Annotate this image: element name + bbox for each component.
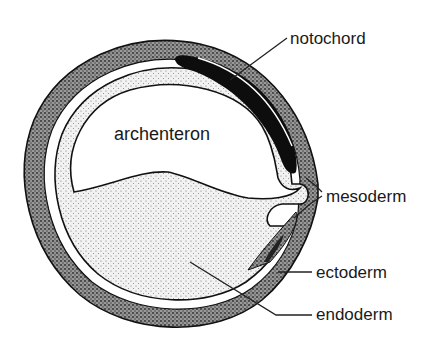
label-endoderm: endoderm — [316, 305, 393, 324]
label-archenteron: archenteron — [114, 124, 210, 144]
label-mesoderm: mesoderm — [326, 187, 406, 206]
label-ectoderm: ectoderm — [316, 263, 387, 282]
label-notochord: notochord — [290, 29, 366, 48]
embryo-diagram: archenteron notochord mesoderm ectoderm … — [0, 0, 423, 342]
